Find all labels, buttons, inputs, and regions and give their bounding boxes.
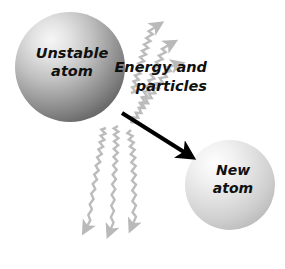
decay-diagram-canvas: Unstable atom New atom Energy and partic… — [0, 0, 285, 269]
unstable-atom-label-line2: atom — [51, 63, 93, 79]
radioactive-decay-figure: Unstable atom New atom Energy and partic… — [0, 0, 285, 269]
new-atom-label-line2: atom — [213, 180, 253, 196]
callout-label-line2: particles — [135, 78, 208, 94]
wavy-arrow-down-1 — [87, 128, 106, 226]
new-atom: New atom — [185, 140, 275, 230]
new-atom-label-line1: New — [216, 162, 250, 178]
wavy-arrow-down-2 — [111, 126, 119, 229]
energy-and-particles-callout: Energy and particles — [114, 59, 207, 94]
unstable-atom-label-line1: Unstable — [36, 45, 109, 61]
wavy-arrow-group-lower — [87, 126, 136, 229]
caption-partial — [0, 261, 285, 269]
callout-label-line1: Energy and — [114, 59, 207, 75]
wavy-arrow-down-3 — [127, 130, 136, 224]
unstable-atom: Unstable atom — [15, 12, 125, 122]
